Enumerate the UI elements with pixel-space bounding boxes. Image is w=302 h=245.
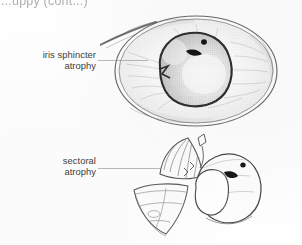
pupil-aperture bbox=[195, 170, 228, 215]
iris-sectoral-view-illustration bbox=[126, 128, 286, 245]
annotation-line-1: sectoral bbox=[12, 155, 96, 166]
annotation-label-iris-sphincter-atrophy: iris sphincter atrophy bbox=[12, 49, 96, 72]
iris-body-with-pupil bbox=[192, 148, 270, 228]
leader-line-sectoral-atrophy bbox=[98, 168, 160, 169]
wedge-apex-tag bbox=[198, 134, 206, 146]
pigment-rest-small bbox=[201, 39, 207, 44]
leader-line-iris-sphincter-atrophy bbox=[98, 60, 148, 61]
figure-canvas: ...uppy (cont...) bbox=[0, 0, 302, 245]
annotation-line-2: atrophy bbox=[12, 60, 96, 71]
annotation-line-2: atrophy bbox=[12, 166, 96, 177]
annotation-label-sectoral-atrophy: sectoral atrophy bbox=[12, 155, 96, 178]
folded-iris-leaf bbox=[130, 180, 192, 238]
running-header: ...uppy (cont...) bbox=[1, 0, 88, 8]
pigment-dot bbox=[240, 163, 245, 168]
annotation-line-1: iris sphincter bbox=[12, 49, 96, 60]
eye-frontal-view-illustration bbox=[100, 8, 302, 130]
